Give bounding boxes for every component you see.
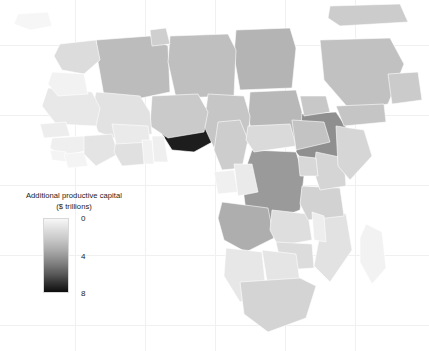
map-region [150, 28, 170, 46]
choropleth-layer [0, 0, 429, 351]
map-region [240, 278, 316, 332]
map-region [246, 124, 296, 152]
map-region [96, 36, 170, 100]
legend-tick-0: 0 [81, 214, 85, 223]
map-region [142, 140, 154, 164]
map-region [84, 134, 118, 166]
map-region [336, 104, 386, 126]
map-region [214, 170, 238, 194]
map-region [328, 4, 408, 26]
map-region [218, 202, 274, 252]
map-region [300, 186, 344, 220]
map-region [360, 224, 386, 284]
legend-tick-4: 4 [81, 251, 85, 260]
legend-title-line2: ($ trillions) [14, 202, 134, 213]
legend-body: 0 4 8 [43, 218, 69, 293]
map-region [150, 94, 208, 138]
map-region [40, 122, 70, 138]
legend-tick-8: 8 [81, 289, 85, 298]
map-figure: Additional productive capital ($ trillio… [0, 0, 429, 351]
map-region [312, 212, 326, 242]
map-region [14, 12, 52, 30]
map-region [298, 156, 318, 176]
legend: Additional productive capital ($ trillio… [14, 191, 134, 212]
map-region [234, 28, 296, 90]
legend-title-line1: Additional productive capital [26, 191, 122, 200]
legend-colorbar [43, 218, 69, 293]
map-region [54, 40, 100, 74]
map-region [388, 72, 422, 104]
legend-title: Additional productive capital ($ trillio… [14, 191, 134, 212]
map-region [214, 120, 248, 170]
map-region [168, 34, 236, 98]
map-regions [14, 4, 422, 332]
